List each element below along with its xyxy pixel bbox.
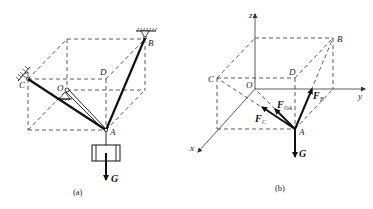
svg-text:C: C: [262, 119, 267, 125]
label-b-a: B: [148, 38, 154, 48]
support-c-icon: [16, 66, 30, 81]
svg-text:F: F: [276, 99, 284, 110]
label-o-a: O: [57, 83, 64, 93]
label-c-b: C: [208, 74, 215, 84]
force-foa-arrow: [275, 109, 295, 129]
svg-text:F: F: [312, 90, 320, 101]
label-b-b: B: [337, 34, 343, 44]
label-g-b: G: [299, 148, 307, 159]
figure-a: B C D O A G (a): [16, 28, 157, 197]
axis-x: [198, 89, 255, 152]
strut-oa: [65, 88, 106, 131]
label-a-b: A: [298, 127, 305, 137]
label-f-oa: F OA: [276, 99, 292, 111]
label-d-b: D: [288, 67, 296, 77]
figure-b: z y x B C D O A F OA F C F B G (b): [189, 10, 365, 193]
support-b-icon: [136, 28, 157, 40]
caption-b: (b): [275, 183, 285, 193]
label-axis-z: z: [248, 10, 253, 20]
label-o-b: O: [246, 80, 253, 90]
label-axis-x: x: [189, 143, 194, 153]
label-f-c: F C: [254, 113, 267, 125]
label-f-b: F B: [312, 90, 324, 102]
label-d-a: D: [99, 67, 107, 77]
svg-text:OA: OA: [284, 105, 292, 111]
rod-ca: [28, 79, 106, 130]
diagram-canvas: B C D O A G (a): [0, 0, 373, 209]
rod-ba: [106, 38, 145, 130]
svg-text:F: F: [254, 113, 262, 124]
label-c-a: C: [19, 80, 26, 90]
label-g-a: G: [111, 173, 119, 184]
caption-a: (a): [73, 187, 83, 197]
svg-text:B: B: [320, 96, 324, 102]
force-fb-arrow: [295, 89, 312, 129]
label-axis-y: y: [357, 91, 362, 101]
label-a-a: A: [109, 127, 116, 137]
